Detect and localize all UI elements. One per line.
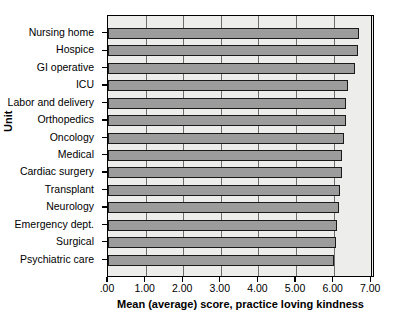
y-tick-label-emergency-dept: Emergency dept. — [15, 216, 94, 233]
bar-row — [108, 252, 375, 269]
bar-row — [108, 95, 375, 112]
bar — [108, 185, 340, 196]
x-axis-tick-labels: .001.002.003.004.005.006.007.00 — [0, 277, 397, 289]
bar-series — [108, 16, 373, 276]
x-tick-label-p00: .00 — [100, 282, 115, 294]
bar-row — [108, 234, 375, 251]
y-tick-label-gi-operative: GI operative — [37, 59, 94, 76]
bar — [108, 115, 346, 126]
bar-row — [108, 60, 375, 77]
x-tick-label-3p00: 3.00 — [210, 282, 230, 294]
y-tick-label-transplant: Transplant — [45, 181, 94, 198]
bar — [108, 237, 336, 248]
bar-row — [108, 182, 375, 199]
bar-row — [108, 164, 375, 181]
bar — [108, 63, 355, 74]
y-tick-label-surgical: Surgical — [56, 233, 94, 250]
bar — [108, 150, 342, 161]
bar-row — [108, 147, 375, 164]
bar — [108, 98, 346, 109]
x-tick-label-7p00: 7.00 — [360, 282, 380, 294]
x-tick-label-6p00: 6.00 — [322, 282, 342, 294]
y-tick-label-labor-and-delivery: Labor and delivery — [8, 94, 94, 111]
y-tick-label-neurology: Neurology — [46, 198, 94, 215]
y-axis-title: Unit — [2, 111, 14, 132]
bar-row — [108, 42, 375, 59]
x-tick-label-2p00: 2.00 — [172, 282, 192, 294]
x-tick-label-1p00: 1.00 — [134, 282, 154, 294]
y-tick-label-psychiatric-care: Psychiatric care — [20, 251, 94, 268]
bar-row — [108, 112, 375, 129]
y-tick-label-hospice: Hospice — [56, 41, 94, 58]
x-axis-title: Mean (average) score, practice loving ki… — [107, 298, 374, 310]
y-tick-label-orthopedics: Orthopedics — [37, 111, 94, 128]
y-tick-label-medical: Medical — [58, 146, 94, 163]
y-tick-label-nursing-home: Nursing home — [29, 24, 94, 41]
y-tick-label-icu: ICU — [76, 76, 94, 93]
bar — [108, 133, 344, 144]
x-tick-label-4p00: 4.00 — [247, 282, 267, 294]
x-tick-label-5p00: 5.00 — [285, 282, 305, 294]
bar-row — [108, 130, 375, 147]
plot-area — [107, 15, 374, 277]
bar — [108, 80, 348, 91]
bar-chart: Unit Nursing homeHospiceGI operativeICUL… — [0, 0, 397, 325]
bar-row — [108, 217, 375, 234]
bar — [108, 167, 342, 178]
bar — [108, 255, 334, 266]
bar — [108, 202, 339, 213]
bar — [108, 220, 337, 231]
y-tick-label-cardiac-surgery: Cardiac surgery — [20, 163, 94, 180]
bar — [108, 28, 359, 39]
bar — [108, 45, 358, 56]
bar-row — [108, 199, 375, 216]
bar-row — [108, 77, 375, 94]
bar-row — [108, 25, 375, 42]
y-tick-label-oncology: Oncology — [50, 129, 94, 146]
